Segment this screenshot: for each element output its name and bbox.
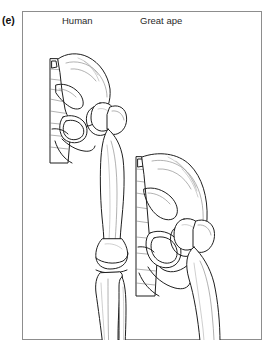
figure-border-box: [22, 11, 262, 340]
panel-label: (e): [2, 14, 15, 26]
figure-panel: (e) Human Great ape .ln { fill:#ffffff; …: [0, 0, 275, 354]
specimen-label-great-ape: Great ape: [140, 15, 182, 26]
specimen-label-human: Human: [62, 15, 93, 26]
